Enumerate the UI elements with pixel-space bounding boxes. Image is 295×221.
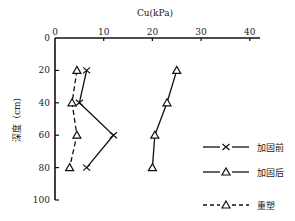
series-2 <box>66 66 81 170</box>
x-marker-icon <box>110 132 117 138</box>
triangle-marker-icon <box>148 164 156 171</box>
y-tick-label: 80 <box>39 163 51 173</box>
x-tick-label: 30 <box>195 27 207 37</box>
legend-item: 加固前 <box>203 142 284 153</box>
cu-depth-chart: Cu(kPa) 010203040 020406080100 深度（cm) 加固… <box>0 0 295 221</box>
y-tick-label: 60 <box>39 130 51 140</box>
triangle-marker-icon <box>222 168 230 175</box>
triangle-marker-icon <box>68 99 76 106</box>
x-tick-label: 40 <box>244 27 256 37</box>
legend-item: 重塑 <box>203 200 275 211</box>
y-axis: 020406080100 <box>33 33 59 205</box>
legend-label: 加固后 <box>257 168 284 178</box>
triangle-marker-icon <box>151 131 159 138</box>
triangle-marker-icon <box>73 131 81 138</box>
series-0 <box>76 67 117 170</box>
triangle-marker-icon <box>173 66 181 73</box>
y-tick-label: 40 <box>39 98 51 108</box>
y-tick-label: 20 <box>39 65 51 75</box>
x-axis: 010203040 <box>52 27 260 41</box>
x-axis-label: Cu(kPa) <box>137 8 173 18</box>
triangle-marker-icon <box>73 66 81 73</box>
x-marker-icon <box>83 165 90 171</box>
legend-label: 重塑 <box>257 200 275 211</box>
plot-series <box>66 66 181 170</box>
x-tick-label: 10 <box>98 27 110 37</box>
series-1 <box>148 66 180 170</box>
x-tick-label: 20 <box>147 27 159 37</box>
y-axis-label: 深度（cm) <box>11 98 22 142</box>
y-tick-label: 100 <box>33 195 50 205</box>
triangle-marker-icon <box>222 201 230 208</box>
legend: 加固前加固后重塑 <box>203 142 284 211</box>
triangle-marker-icon <box>66 164 74 171</box>
triangle-marker-icon <box>163 99 171 106</box>
y-tick-label: 0 <box>44 33 50 43</box>
x-marker-icon <box>223 144 230 150</box>
legend-item: 加固后 <box>203 168 284 178</box>
legend-label: 加固前 <box>257 142 284 153</box>
x-tick-label: 0 <box>52 27 58 37</box>
